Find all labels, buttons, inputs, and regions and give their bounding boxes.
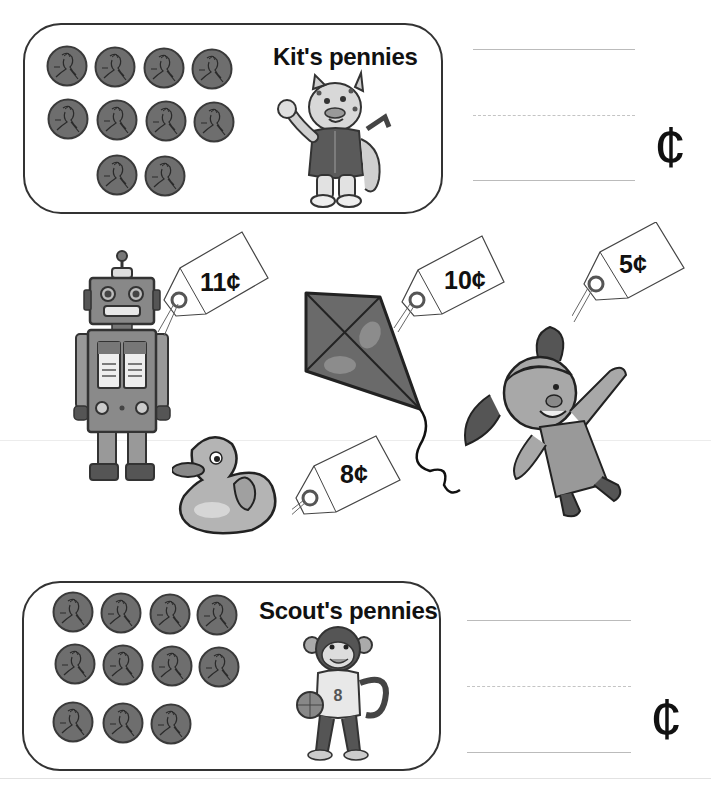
penny-icon [52, 591, 94, 633]
penny-icon [54, 643, 96, 685]
penny-icon [149, 593, 191, 635]
monkey-mascot-icon: 8 [294, 623, 394, 763]
penny-icon [46, 45, 88, 87]
scout-cent-sign: ¢ [650, 690, 682, 748]
kit-answer-field[interactable] [473, 50, 635, 180]
penny-icon [143, 47, 185, 89]
penny-icon [100, 592, 142, 634]
penny-icon [151, 645, 193, 687]
penny-icon [96, 154, 138, 196]
doll-price-tag: 5¢ [572, 222, 692, 336]
penny-icon [102, 644, 144, 686]
penny-icon [144, 155, 186, 197]
penny-icon [198, 646, 240, 688]
penny-icon [47, 98, 89, 140]
kite-price-tag: 10¢ [392, 232, 512, 346]
penny-icon [145, 100, 187, 142]
penny-icon [102, 702, 144, 744]
kit-answer-base-line [473, 180, 635, 181]
scout-pennies-title: Scout's pennies [259, 597, 438, 625]
robot-price-tag: 11¢ [150, 228, 270, 342]
scan-line [0, 778, 711, 779]
kite-price: 10¢ [444, 266, 486, 295]
penny-icon [94, 46, 136, 88]
penny-icon [96, 99, 138, 141]
duck-price-tag: 8¢ [292, 422, 412, 536]
penny-icon [191, 48, 233, 90]
penny-icon [193, 101, 235, 143]
penny-icon [52, 701, 94, 743]
penny-icon [196, 594, 238, 636]
rubber-duck-icon [172, 430, 292, 540]
scout-answer-base-line [467, 752, 631, 753]
kit-pennies-box: Kit's pennies [23, 23, 443, 214]
leopard-mascot-icon [275, 69, 395, 209]
svg-text:8: 8 [334, 687, 343, 704]
penny-icon [150, 703, 192, 745]
duck-price: 8¢ [340, 460, 368, 489]
scout-pennies-box: Scout's pennies 8 [22, 581, 441, 771]
doll-price: 5¢ [619, 250, 647, 279]
kit-pennies-title: Kit's pennies [273, 43, 418, 71]
scout-answer-field[interactable] [467, 621, 631, 752]
robot-price: 11¢ [200, 268, 240, 297]
kit-cent-sign: ¢ [654, 118, 686, 176]
